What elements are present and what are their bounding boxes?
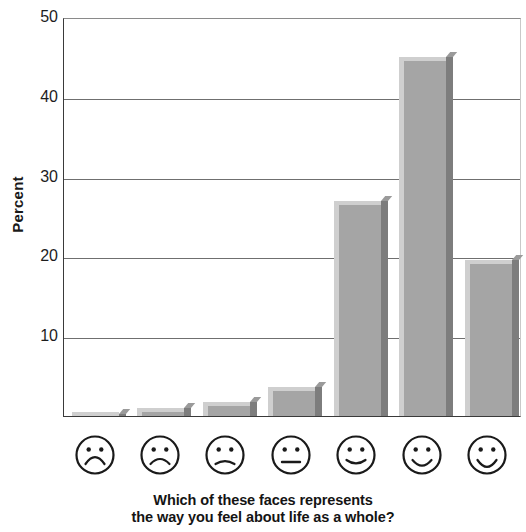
bar-front-face [465,260,512,416]
bar-top-face [512,255,523,260]
bar-very-sad-face [72,414,119,416]
bar-side-face [512,260,519,416]
y-tick-label-30: 30 [22,169,58,185]
bar-top-face [184,403,195,408]
neutral-face-icon [270,434,312,476]
bar-top-face [250,397,261,402]
x-tick-sad-face [138,434,182,490]
bar-side-face [381,201,388,416]
bar-front-face [137,408,184,416]
bar-sad-face [137,408,184,416]
bar-side-face [446,57,453,416]
bar-front-face [334,201,381,416]
chart-caption: Which of these faces represents the way … [0,492,526,526]
x-tick-neutral-face [269,434,313,490]
bar-side-face [184,408,191,416]
bar-top-face [446,52,457,57]
x-tick-very-happy-face [465,434,509,490]
very-sad-face-icon [74,434,116,476]
bar-slightly-happy-face [334,201,381,416]
slightly-sad-face-icon [204,434,246,476]
y-tick-label-40: 40 [22,89,58,105]
x-tick-slightly-sad-face [203,434,247,490]
bar-side-face [119,414,126,416]
bar-top-face [119,409,130,414]
plot-area [63,18,521,417]
bar-chart-figure: Percent 1020304050 Which of these faces … [0,0,526,532]
bar-front-face [268,387,315,416]
bar-front-face [72,412,119,416]
very-happy-face-icon [466,434,508,476]
bar-top-face [315,382,326,387]
x-axis-face-icons [63,434,521,490]
bars-group [64,19,520,416]
y-tick-label-20: 20 [22,248,58,264]
bar-top-face [381,196,392,201]
y-tick-label-50: 50 [22,9,58,25]
x-tick-very-sad-face [73,434,117,490]
bar-very-happy-face [465,260,512,416]
happy-face-icon [401,434,443,476]
x-tick-slightly-happy-face [334,434,378,490]
bar-side-face [250,402,257,416]
bar-front-face [399,57,446,416]
bar-front-face [203,402,250,416]
y-tick-label-10: 10 [22,328,58,344]
bar-side-face [315,387,322,416]
y-axis-tick-labels: 1020304050 [16,0,58,532]
bar-slightly-sad-face [203,402,250,416]
caption-line-1: Which of these faces represents [0,492,526,509]
bar-happy-face [399,57,446,416]
bar-neutral-face [268,387,315,416]
x-tick-happy-face [400,434,444,490]
caption-line-2: the way you feel about life as a whole? [0,509,526,526]
sad-face-icon [139,434,181,476]
slightly-happy-face-icon [335,434,377,476]
